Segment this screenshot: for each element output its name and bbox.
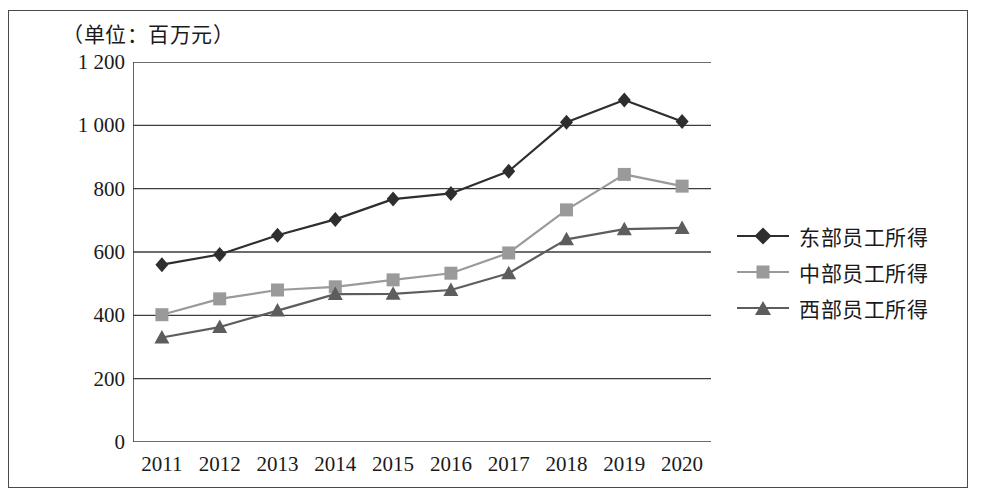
- y-tick-label: 400: [45, 303, 125, 328]
- chart-legend: 东部员工所得中部员工所得西部员工所得: [737, 218, 957, 326]
- legend-item-1[interactable]: 东部员工所得: [737, 218, 957, 254]
- x-tick-label: 2016: [430, 452, 472, 477]
- y-tick-label: 1 200: [45, 50, 125, 75]
- data-point-marker: [213, 292, 226, 305]
- y-tick-label: 600: [45, 240, 125, 265]
- legend-item-3[interactable]: 西部员工所得: [737, 290, 957, 326]
- y-axis-tick-labels: 02004006008001 0001 200: [45, 62, 125, 442]
- x-axis-tick-labels: 2011201220132014201520162017201820192020: [133, 452, 711, 482]
- legend-item-2[interactable]: 中部员工所得: [737, 254, 957, 290]
- data-point-marker: [329, 212, 342, 227]
- data-point-marker: [560, 203, 573, 216]
- data-point-marker: [271, 228, 284, 243]
- x-tick-label: 2018: [546, 452, 588, 477]
- y-tick-label: 200: [45, 366, 125, 391]
- legend-key-marker: [755, 228, 772, 245]
- plot-area: [133, 62, 711, 442]
- x-tick-label: 2014: [314, 452, 356, 477]
- legend-label: 东部员工所得: [799, 221, 928, 251]
- data-point-marker: [387, 192, 400, 207]
- x-tick-label: 2012: [199, 452, 241, 477]
- data-point-marker: [213, 247, 226, 262]
- legend-key-triangle-icon: [737, 298, 789, 318]
- x-tick-label: 2019: [603, 452, 645, 477]
- legend-label: 中部员工所得: [799, 257, 928, 287]
- x-tick-label: 2011: [141, 452, 182, 477]
- x-tick-label: 2013: [257, 452, 299, 477]
- data-point-marker: [676, 180, 689, 193]
- y-tick-label: 0: [45, 430, 125, 455]
- data-point-marker: [618, 168, 631, 181]
- legend-key-diamond-icon: [737, 226, 789, 246]
- legend-key-marker: [757, 266, 770, 279]
- data-point-marker: [618, 93, 631, 108]
- data-point-marker: [502, 246, 515, 259]
- data-point-marker: [501, 266, 516, 280]
- y-tick-label: 1 000: [45, 113, 125, 138]
- data-point-marker: [271, 284, 284, 297]
- chart-figure: （单位：百万元） 02004006008001 0001 200 2011201…: [0, 0, 981, 492]
- series-line-3: [162, 228, 682, 338]
- data-point-marker: [155, 308, 168, 321]
- data-point-marker: [676, 114, 689, 129]
- unit-label: （单位：百万元）: [62, 18, 234, 48]
- x-tick-label: 2017: [488, 452, 530, 477]
- legend-label: 西部员工所得: [799, 293, 928, 323]
- legend-key-square-icon: [737, 262, 789, 282]
- line-chart-svg: [133, 62, 711, 442]
- x-tick-label: 2020: [661, 452, 703, 477]
- data-point-marker: [155, 257, 168, 272]
- legend-key-marker: [755, 301, 771, 315]
- x-tick-label: 2015: [372, 452, 414, 477]
- y-tick-label: 800: [45, 176, 125, 201]
- data-point-marker: [444, 267, 457, 280]
- data-point-marker: [387, 273, 400, 286]
